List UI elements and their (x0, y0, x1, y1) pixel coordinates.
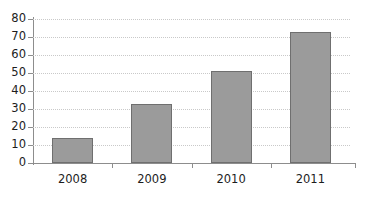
y-axis-tick-label: 10 (0, 137, 26, 151)
bar-series (33, 19, 350, 163)
y-axis-tick-label: 20 (0, 119, 26, 133)
x-axis-tick (271, 163, 272, 168)
y-axis-tick-label: 40 (0, 83, 26, 97)
x-axis-tick-label: 2011 (270, 172, 350, 186)
bar (131, 104, 172, 163)
x-axis-tick-label: 2010 (191, 172, 271, 186)
bar (290, 32, 331, 163)
x-axis-tick (192, 163, 193, 168)
bar-chart: 01020304050607080 2008200920102011 (0, 0, 370, 199)
bar (211, 71, 252, 163)
bar (52, 138, 93, 163)
x-axis-tick-label: 2009 (112, 172, 192, 186)
x-axis-end-tick (355, 163, 356, 168)
x-axis-tick-label: 2008 (33, 172, 113, 186)
y-axis-tick-label: 50 (0, 65, 26, 79)
y-axis-tick-label: 70 (0, 29, 26, 43)
y-axis-tick-label: 30 (0, 101, 26, 115)
x-axis-tick (112, 163, 113, 168)
y-axis-tick-label: 80 (0, 11, 26, 25)
y-axis-tick (28, 163, 33, 164)
x-axis-line (33, 163, 356, 164)
y-axis-tick-label: 0 (0, 155, 26, 169)
y-axis-tick-label: 60 (0, 47, 26, 61)
